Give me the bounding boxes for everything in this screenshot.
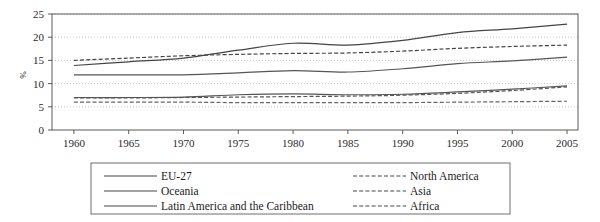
gridlines	[52, 14, 578, 107]
x-tick-label-1990: 1990	[392, 137, 415, 149]
legend-item-right-label-1[interactable]: Asia	[410, 185, 431, 197]
x-tick-label-1965: 1965	[118, 137, 141, 149]
x-tick-label-2005: 2005	[556, 137, 579, 149]
series-line-oceania	[74, 57, 567, 75]
plot-frame	[52, 14, 578, 130]
y-tick-label-25: 25	[33, 8, 45, 20]
series-lines	[74, 24, 567, 102]
y-tick-label-20: 20	[33, 31, 45, 43]
series-line-africa	[74, 101, 567, 102]
y-tick-label-5: 5	[39, 101, 45, 113]
y-axis: 0510152025	[33, 8, 52, 136]
y-tick-label-0: 0	[39, 124, 45, 136]
x-tick-label-1985: 1985	[337, 137, 360, 149]
legend-item-left-label-0[interactable]: EU-27	[161, 170, 192, 182]
x-axis: 1960196519701975198019851990199520002005	[63, 130, 579, 149]
x-tick-label-1970: 1970	[173, 137, 196, 149]
legend: EU-27OceaniaLatin America and the Caribb…	[91, 163, 510, 214]
legend-item-right-label-0[interactable]: North America	[410, 170, 479, 182]
series-line-asia	[74, 87, 567, 98]
chart-figure: 0510152025 19601965197019751980198519901…	[0, 0, 600, 222]
legend-item-left-label-2[interactable]: Latin America and the Caribbean	[161, 200, 314, 212]
y-axis-title: %	[18, 71, 28, 79]
series-line-north-america	[74, 45, 567, 60]
chart-svg: 0510152025 19601965197019751980198519901…	[0, 0, 600, 222]
x-tick-label-1975: 1975	[227, 137, 250, 149]
x-tick-label-1980: 1980	[282, 137, 305, 149]
y-tick-label-10: 10	[33, 78, 45, 90]
x-tick-label-1960: 1960	[63, 137, 86, 149]
y-tick-label-15: 15	[33, 54, 45, 66]
x-tick-label-2000: 2000	[501, 137, 524, 149]
series-line-eu-27	[74, 24, 567, 65]
x-tick-label-1995: 1995	[446, 137, 469, 149]
legend-item-right-label-2[interactable]: Africa	[410, 200, 439, 212]
legend-item-left-label-1[interactable]: Oceania	[161, 185, 199, 197]
